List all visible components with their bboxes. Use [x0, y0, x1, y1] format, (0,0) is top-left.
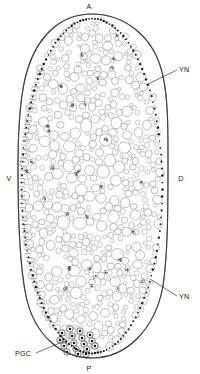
- peripheral-nucleus: [43, 63, 46, 66]
- yolk-granule: [58, 277, 63, 282]
- yolk-granule: [126, 245, 131, 251]
- yolk-granule: [136, 120, 141, 125]
- yolk-granule: [55, 287, 59, 291]
- peripheral-nucleus: [159, 223, 161, 225]
- yolk-granule: [46, 300, 50, 304]
- peripheral-nucleus: [85, 352, 88, 355]
- peripheral-nucleus: [30, 269, 32, 271]
- yolk-granule: [24, 218, 28, 222]
- yolk-granule: [134, 172, 139, 177]
- yolk-granule: [114, 205, 121, 211]
- peripheral-nucleus: [145, 78, 147, 80]
- yolk-granule: [67, 292, 71, 297]
- yolk-granule: [144, 100, 149, 105]
- yolk-granule: [130, 204, 137, 210]
- yolk-granule: [90, 148, 94, 152]
- yolk-granule: [80, 44, 89, 53]
- peripheral-nucleus: [91, 352, 93, 354]
- yolk-granule: [130, 164, 137, 170]
- yolk-granule: [41, 105, 47, 111]
- peripheral-nucleus: [23, 223, 25, 225]
- yolk-granule: [146, 225, 152, 230]
- peripheral-nucleus: [25, 237, 27, 239]
- yolk-granule: [32, 233, 36, 237]
- peripheral-nucleus: [33, 89, 35, 91]
- yolk-granule: [56, 57, 60, 61]
- yolk-granule: [80, 159, 84, 163]
- peripheral-nucleus: [21, 182, 23, 184]
- peripheral-nucleus: [37, 78, 39, 80]
- peripheral-nucleus: [27, 114, 29, 116]
- yolk-granule: [54, 111, 62, 119]
- peripheral-nucleus: [153, 107, 155, 109]
- yolk-granule: [26, 156, 30, 160]
- yolk-granule: [29, 144, 37, 152]
- yolk-granule: [42, 190, 47, 196]
- yolk-granule: [87, 205, 91, 209]
- peripheral-nucleus: [57, 38, 60, 41]
- yolk-granule: [135, 110, 140, 115]
- yolk-granule: [135, 294, 140, 299]
- yolk-granule: [57, 187, 61, 191]
- yolk-granule: [74, 66, 82, 73]
- peripheral-nucleus: [41, 68, 43, 70]
- peripheral-nucleus: [30, 101, 32, 103]
- yolk-granule: [110, 239, 114, 243]
- yolk-granule: [51, 266, 62, 276]
- peripheral-nucleus: [29, 262, 31, 264]
- yolk-granule: [105, 245, 112, 251]
- peripheral-nucleus: [137, 312, 139, 314]
- peripheral-nucleus: [160, 209, 162, 211]
- yolk-granule: [128, 157, 132, 161]
- peripheral-nucleus: [24, 133, 26, 135]
- primordial-germ-cell: [69, 333, 75, 339]
- peripheral-nucleus: [100, 19, 102, 21]
- yolk-granule: [108, 71, 116, 79]
- yolk-granule: [146, 107, 154, 115]
- peripheral-nucleus: [54, 328, 56, 330]
- yolk-granule: [70, 287, 82, 299]
- yolk-granule: [114, 314, 118, 319]
- yolk-granule: [151, 168, 155, 172]
- yolk-granule: [60, 153, 66, 160]
- peripheral-nucleus: [63, 32, 65, 34]
- yolk-granule: [32, 175, 38, 181]
- yolk-granule: [95, 66, 101, 72]
- yolk-granule: [123, 131, 132, 139]
- yolk-granule: [87, 85, 92, 91]
- yolk-granule: [33, 201, 43, 211]
- yolk-granule: [101, 256, 107, 262]
- yolk-granule: [126, 60, 131, 64]
- yolk-granule: [52, 202, 62, 212]
- primordial-germ-cell: [92, 343, 98, 349]
- yolk-granule: [121, 217, 128, 223]
- peripheral-nucleus: [32, 274, 35, 277]
- yolk-granule: [26, 140, 30, 144]
- yolk-granule: [53, 280, 58, 285]
- yolk-granule: [82, 112, 89, 118]
- yolk-granule: [37, 185, 43, 191]
- peripheral-nucleus: [73, 347, 75, 349]
- yolk-granule: [151, 187, 158, 194]
- yolk-granule: [56, 216, 59, 220]
- peripheral-nucleus: [29, 107, 31, 109]
- peripheral-nucleus: [161, 188, 164, 191]
- yolk-granule: [47, 116, 52, 121]
- yolk-granule: [80, 60, 84, 64]
- yolk-granule: [62, 229, 66, 234]
- yolk-granule: [85, 270, 89, 274]
- peripheral-nucleus: [50, 50, 52, 52]
- yolk-granule: [90, 98, 96, 103]
- peripheral-nucleus: [137, 58, 139, 60]
- peripheral-nucleus: [135, 54, 137, 56]
- yolk-granule: [46, 214, 54, 222]
- peripheral-nucleus: [149, 89, 151, 91]
- peripheral-nucleus: [22, 147, 24, 149]
- peripheral-nucleus: [100, 351, 102, 353]
- yolk-granule: [57, 121, 65, 128]
- peripheral-nucleus: [117, 341, 119, 343]
- yolk-granule: [60, 132, 69, 140]
- yolk-granule: [62, 245, 69, 252]
- peripheral-nucleus: [127, 328, 129, 330]
- yolk-granule: [100, 92, 106, 97]
